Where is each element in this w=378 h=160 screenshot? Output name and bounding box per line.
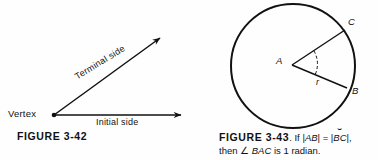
initial-side-label: Initial side (96, 118, 138, 127)
point-c-label: C (348, 17, 355, 27)
figure-3-43-caption-bac: BAC (249, 145, 271, 156)
figure-3-43-caption-figure-word: FIGURE 3-43 (219, 131, 289, 143)
figure-3-43-caption-line2: then ∠ BAC is 1 radian. (219, 145, 352, 157)
figure-3-43-caption-prefix: . If | (289, 132, 305, 143)
arc-bc-group: ⌣BC (333, 132, 346, 144)
point-a-label: A (276, 56, 282, 66)
central-angle-arc-marker (314, 51, 317, 75)
point-b-label: B (352, 86, 358, 96)
figure-3-43-caption-then: then (219, 145, 240, 156)
figure-3-43-caption-suffix: |, (347, 132, 352, 143)
terminal-side-ray (54, 38, 160, 115)
angle-symbol-icon: ∠ (240, 145, 249, 156)
figure-3-43-caption: FIGURE 3-43. If |AB| = |⌣BC|, then ∠ BAC… (219, 131, 352, 157)
arc-overbar-icon: ⌣ (333, 126, 346, 131)
radius-segment-ab (292, 65, 347, 88)
vertex-label: Vertex (8, 109, 36, 119)
figure-3-43-caption-mid: | = | (318, 132, 334, 143)
circle-diagram-3-43 (231, 4, 355, 128)
figure-3-42-caption: FIGURE 3-42 (17, 131, 87, 142)
figure-page: Vertex Initial side Terminal side FIGURE… (0, 0, 378, 160)
radius-label: r (316, 78, 319, 87)
radius-segment-ac (292, 30, 345, 65)
figure-3-43-caption-ab: AB (305, 132, 318, 143)
figure-3-43-caption-bc: BC (333, 132, 346, 143)
figure-3-43-caption-radian: is 1 radian. (271, 145, 320, 156)
